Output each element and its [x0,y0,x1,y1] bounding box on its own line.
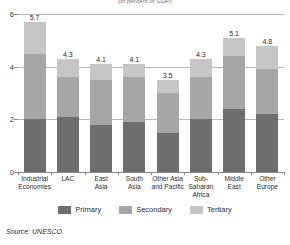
stacked-bar[interactable]: 4.8 [256,46,278,172]
bar-value-label: 4.1 [96,56,106,63]
stacked-bar[interactable]: 4.1 [90,64,112,172]
chart-legend: PrimarySecondaryTertiary [0,205,290,214]
bar-column: 4.1 [118,14,151,172]
bar-group: 5.74.34.14.13.54.35.14.8 [18,14,284,172]
bar-segment-secondary [223,56,245,109]
bar-segment-secondary [123,77,145,122]
bar-value-label: 4.3 [196,51,206,58]
legend-item-secondary[interactable]: Secondary [119,205,172,214]
bar-segment-tertiary [90,64,112,80]
bar-column: 4.1 [85,14,118,172]
bar-segment-primary [256,114,278,172]
x-axis-label: Other Asia and Pacific [151,172,184,202]
y-tick-label: 2 [10,115,14,124]
bar-segment-secondary [24,54,46,120]
bar-value-label: 3.5 [163,72,173,79]
bar-column: 4.3 [51,14,84,172]
x-axis-label: South Asia [118,172,151,202]
legend-label: Primary [75,205,101,214]
x-tick-mark [184,172,185,175]
bar-segment-secondary [190,77,212,119]
bar-segment-tertiary [223,38,245,56]
stacked-bar[interactable]: 4.3 [57,59,79,172]
x-tick-mark [85,172,86,175]
bar-segment-secondary [57,77,79,117]
x-axis-label: Sub- Saharan Africa [184,172,217,202]
bar-column: 3.5 [151,14,184,172]
bar-segment-primary [24,119,46,172]
x-tick-mark [51,172,52,175]
bar-segment-tertiary [157,80,179,93]
bar-segment-primary [57,117,79,172]
y-tick-label: 6 [10,10,14,19]
plot-area: 0246 5.74.34.14.13.54.35.14.8 [18,14,284,172]
bar-segment-tertiary [123,64,145,77]
bar-segment-primary [190,119,212,172]
legend-label: Secondary [136,205,172,214]
stacked-bar[interactable]: 4.1 [123,64,145,172]
bar-segment-secondary [90,80,112,125]
legend-item-tertiary[interactable]: Tertiary [190,205,232,214]
legend-label: Tertiary [207,205,232,214]
legend-swatch-icon [119,206,132,214]
bar-segment-tertiary [256,46,278,70]
x-tick-mark [284,172,285,175]
y-tick-label: 0 [10,168,14,177]
legend-swatch-icon [58,206,71,214]
bar-segment-secondary [157,93,179,133]
bar-segment-primary [223,109,245,172]
chart-subtitle: (in percent of GDP) [0,0,290,4]
x-tick-mark [18,172,19,175]
bar-segment-primary [123,122,145,172]
bar-segment-primary [157,133,179,173]
y-tick-label: 4 [10,62,14,71]
bar-value-label: 5.1 [229,30,239,37]
bar-segment-primary [90,125,112,172]
x-axis-label: Middle East [218,172,251,202]
stacked-bar[interactable]: 3.5 [157,80,179,172]
bar-column: 4.8 [251,14,284,172]
x-tick-mark [151,172,152,175]
stacked-bar[interactable]: 4.3 [190,59,212,172]
stacked-bar[interactable]: 5.1 [223,38,245,172]
bar-value-label: 4.3 [63,51,73,58]
bar-segment-tertiary [190,59,212,77]
x-axis-label: LAC [51,172,84,202]
bar-column: 5.1 [218,14,251,172]
x-axis-label: Other Europe [251,172,284,202]
bar-value-label: 4.1 [130,56,140,63]
legend-swatch-icon [190,206,203,214]
bar-value-label: 4.8 [263,38,273,45]
x-tick-mark [118,172,119,175]
bar-column: 4.3 [184,14,217,172]
stacked-bar[interactable]: 5.7 [24,22,46,172]
bar-segment-secondary [256,69,278,114]
legend-item-primary[interactable]: Primary [58,205,101,214]
bar-segment-tertiary [57,59,79,77]
x-axis-label: East Asia [85,172,118,202]
x-axis-label: Industrial Economies [18,172,51,202]
x-tick-mark [251,172,252,175]
bar-segment-tertiary [24,22,46,54]
chart-figure: (in percent of GDP) 0246 5.74.34.14.13.5… [0,0,290,245]
x-tick-mark [218,172,219,175]
bar-value-label: 5.7 [30,14,40,21]
source-note: Source: UNESCO. [6,228,64,235]
x-axis-labels: Industrial EconomiesLACEast AsiaSouth As… [18,172,284,202]
bar-column: 5.7 [18,14,51,172]
